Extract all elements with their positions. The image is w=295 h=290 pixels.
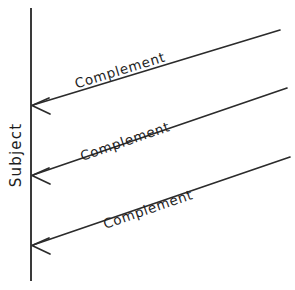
- diagram-svg: Subject Complement Complement Complement: [0, 0, 295, 290]
- subject-axis-label: Subject: [7, 123, 25, 187]
- message-label-1: Complement: [73, 49, 167, 92]
- message-line-1: [33, 30, 280, 105]
- sequence-diagram-canvas: Subject Complement Complement Complement: [0, 0, 295, 290]
- message-label-3: Complement: [101, 186, 195, 232]
- message-arrow-1: [32, 30, 280, 114]
- message-label-2: Complement: [78, 118, 172, 164]
